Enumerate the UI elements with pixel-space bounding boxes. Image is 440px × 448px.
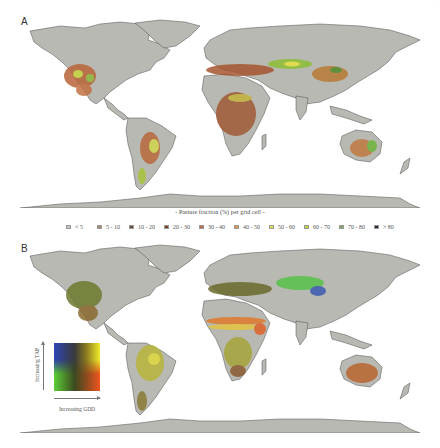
- legend-label: 20 - 30: [173, 224, 190, 230]
- bivariate-color-square: [54, 343, 100, 391]
- legend-swatch: [129, 225, 134, 229]
- legend-swatch: [234, 225, 239, 229]
- legend-a: < 5 5 - 10 10 - 20 20 - 30 30 - 40 40 - …: [66, 224, 403, 230]
- page-corner-mark: · ·: [432, 1, 436, 6]
- landmass-central-america: [104, 98, 128, 120]
- bivariate-bottom-gradient: [54, 343, 100, 391]
- legend-swatch: [304, 225, 309, 229]
- legend-swatch: [66, 225, 71, 229]
- legend-b-y-label: Increasing TAP: [34, 342, 40, 388]
- legend-label: 5 - 10: [106, 224, 120, 230]
- landmass-se-asia: [330, 331, 372, 349]
- legend-item: 30 - 40: [199, 224, 225, 230]
- landmass-india: [296, 321, 308, 345]
- legend-item: 50 - 60: [269, 224, 295, 230]
- legend-item: 40 - 50: [234, 224, 260, 230]
- legend-label: 60 - 70: [313, 224, 330, 230]
- landmass-madagascar: [262, 359, 266, 375]
- legend-item: 5 - 10: [97, 224, 120, 230]
- legend-label: 30 - 40: [208, 224, 225, 230]
- legend-swatch: [269, 225, 274, 229]
- landmass-se-asia: [330, 106, 372, 124]
- arrow-right-icon: [54, 398, 100, 399]
- legend-swatch: [339, 225, 344, 229]
- legend-swatch: [164, 225, 169, 229]
- map-panel-a: [0, 18, 440, 208]
- legend-label: 40 - 50: [243, 224, 260, 230]
- legend-b-x-label: Increasing GDD: [52, 406, 102, 412]
- landmass-antarctica: [20, 194, 420, 208]
- legend-label: 50 - 60: [278, 224, 295, 230]
- legend-swatch: [199, 225, 204, 229]
- legend-swatch: [374, 225, 379, 229]
- legend-label: 70 - 80: [348, 224, 365, 230]
- legend-label: < 5: [75, 224, 83, 230]
- landmass-new-zealand: [400, 383, 410, 399]
- legend-item: 60 - 70: [304, 224, 330, 230]
- legend-item: < 5: [66, 224, 83, 230]
- legend-item: > 80: [374, 224, 394, 230]
- legend-item: 20 - 30: [164, 224, 190, 230]
- landmass-new-zealand: [400, 158, 410, 174]
- legend-b: Increasing TAP Increasing GDD: [30, 336, 120, 416]
- legend-a-title: - Pasture fraction (%) per grid cell -: [0, 209, 440, 215]
- legend-item: 70 - 80: [339, 224, 365, 230]
- legend-item: 10 - 20: [129, 224, 155, 230]
- landmass-madagascar: [262, 134, 266, 150]
- arrow-up-icon: [43, 342, 44, 390]
- legend-label: 10 - 20: [138, 224, 155, 230]
- landmass-antarctica: [20, 419, 420, 433]
- legend-label: > 80: [383, 224, 394, 230]
- legend-swatch: [97, 225, 102, 229]
- landmass-india: [296, 96, 308, 120]
- world-map-a: [0, 18, 440, 208]
